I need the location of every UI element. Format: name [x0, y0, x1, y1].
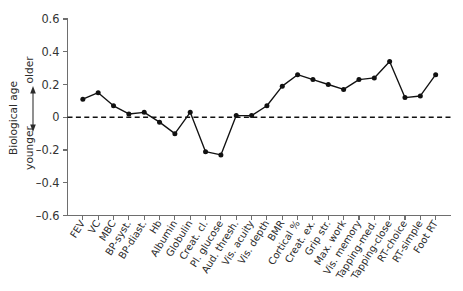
- data-point: [264, 103, 269, 108]
- x-axis-tick-label: FEV: [68, 218, 87, 240]
- data-point: [203, 149, 208, 154]
- data-point: [218, 152, 223, 157]
- y-axis-tick-label: –0.6: [36, 209, 60, 223]
- y-axis-title: Biological age: [7, 81, 19, 155]
- data-point: [111, 103, 116, 108]
- data-point: [356, 77, 361, 82]
- data-point: [80, 97, 85, 102]
- x-axis-tick-labels: FEVVCMBCBP-syst.BP-diast.HbAlbuminGlobul…: [68, 217, 441, 282]
- y-axis-tick-label: –0.4: [36, 176, 60, 190]
- data-point: [387, 59, 392, 64]
- data-series-markers: [80, 59, 438, 157]
- data-point: [188, 110, 193, 115]
- x-axis: FEVVCMBCBP-syst.BP-diast.HbAlbuminGlobul…: [68, 216, 452, 282]
- y-axis-tick-label: 0.6: [41, 12, 59, 26]
- data-point: [310, 77, 315, 82]
- y-axis-tick-label: 0: [52, 110, 59, 124]
- y-axis-ticks: 0.60.40.20–0.2–0.4–0.6: [36, 12, 68, 223]
- biological-age-line-chart: Biological age younger older 0.60.40.20–…: [0, 0, 463, 291]
- y-axis-tick-label: 0.4: [41, 45, 59, 59]
- y-axis-direction-low-label: younger: [23, 125, 35, 169]
- data-point: [172, 131, 177, 136]
- data-point: [142, 110, 147, 115]
- data-point: [418, 93, 423, 98]
- data-point: [295, 72, 300, 77]
- data-point: [433, 72, 438, 77]
- chart-figure: Biological age younger older 0.60.40.20–…: [0, 0, 463, 291]
- data-point: [372, 75, 377, 80]
- y-axis-tick-label: –0.2: [36, 143, 60, 157]
- y-axis-direction-arrow-icon: [30, 86, 36, 132]
- y-axis-direction-high-label: older: [23, 56, 35, 84]
- y-axis: 0.60.40.20–0.2–0.4–0.6: [36, 12, 68, 223]
- data-point: [96, 90, 101, 95]
- data-point: [157, 120, 162, 125]
- data-point: [341, 87, 346, 92]
- y-axis-label-group: Biological age younger older: [7, 56, 36, 170]
- data-point: [402, 95, 407, 100]
- data-point: [234, 113, 239, 118]
- data-point: [249, 113, 254, 118]
- data-point: [326, 82, 331, 87]
- data-point: [126, 111, 131, 116]
- x-axis-ticks: [83, 216, 436, 221]
- data-point: [280, 84, 285, 89]
- y-axis-tick-label: 0.2: [41, 78, 59, 92]
- data-series-line: [83, 62, 436, 155]
